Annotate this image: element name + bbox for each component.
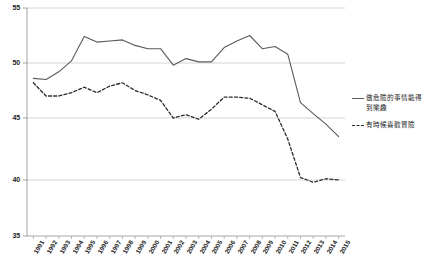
y-axis-tick-label: 55: [2, 4, 20, 11]
legend-swatch-solid-icon: [352, 98, 364, 99]
y-axis-tick-label: 45: [2, 114, 20, 121]
chart-legend: 做危險的事情能得到樂趣 有時候喜歡冒險: [352, 94, 427, 139]
legend-label-0: 做危險的事情能得到樂趣: [366, 94, 422, 112]
y-axis-tick-label: 50: [2, 59, 20, 66]
series-line-solid: [33, 36, 338, 137]
legend-item-0[interactable]: 做危險的事情能得到樂趣: [352, 94, 427, 113]
series-line-dashed: [33, 83, 338, 182]
y-axis-ticks: [23, 8, 27, 236]
gridlines: [27, 8, 345, 180]
legend-label-1: 有時候喜歡冒險: [366, 121, 415, 129]
legend-swatch-dashed-icon: [352, 125, 364, 126]
legend-item-1[interactable]: 有時候喜歡冒險: [352, 121, 427, 131]
line-chart: 3540455055 19911992199319941995199619971…: [0, 0, 427, 268]
y-axis-tick-label: 40: [2, 176, 20, 183]
y-axis-tick-label: 35: [2, 232, 20, 239]
